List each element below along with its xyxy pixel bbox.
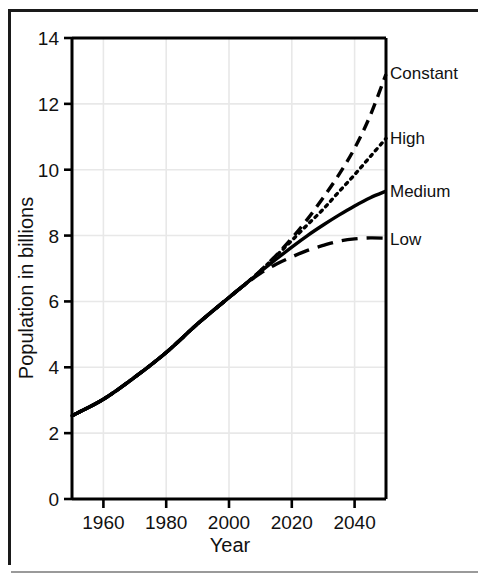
population-projection-chart: 0246810121419601980200020202040 Constant…: [0, 0, 478, 579]
y-axis-tick-label: 0: [48, 489, 59, 510]
y-axis-tick-label: 10: [38, 160, 59, 181]
x-axis-tick-label: 1960: [82, 512, 124, 533]
chart-series-labels: ConstantHighMediumLow: [390, 64, 458, 249]
y-axis-tick-label: 12: [38, 94, 59, 115]
y-axis-tick-label: 8: [48, 226, 59, 247]
chart-gridlines: [72, 38, 386, 499]
y-axis-tick-label: 2: [48, 423, 59, 444]
chart-ticks: [64, 38, 355, 508]
x-axis-title: Year: [210, 534, 251, 556]
series-historical-trunk: [72, 285, 245, 416]
series-label-low: Low: [390, 230, 422, 249]
y-axis-tick-label: 14: [38, 28, 60, 49]
x-axis-tick-label: 2000: [208, 512, 250, 533]
chart-page: 0246810121419601980200020202040 Constant…: [0, 0, 478, 579]
series-label-medium: Medium: [390, 182, 450, 201]
x-axis-tick-label: 2040: [333, 512, 375, 533]
y-axis-tick-label: 4: [48, 357, 59, 378]
x-axis-tick-label: 1980: [145, 512, 187, 533]
x-axis-tick-label: 2020: [271, 512, 313, 533]
series-label-constant: Constant: [390, 64, 458, 83]
y-axis-title: Population in billions: [15, 197, 37, 379]
y-axis-tick-label: 6: [48, 291, 59, 312]
series-label-high: High: [390, 129, 425, 148]
